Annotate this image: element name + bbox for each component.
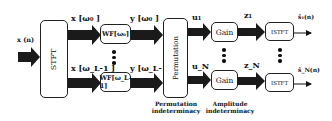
u-bottom-label: u_N — [192, 62, 209, 70]
gain-top-block: Gain — [211, 22, 238, 42]
istft-bottom-label: ISTFT — [271, 80, 288, 86]
vertical-ellipsis-gain — [222, 48, 226, 63]
x-bottom-label: x [ω_L-1 ] — [71, 64, 115, 72]
istft-top-label: ISTFT — [271, 29, 288, 35]
gain-bottom-block: Gain — [211, 70, 238, 90]
output-top-label: ŝ₁(n) — [298, 14, 314, 20]
amplitude-caption: Amplitude indeterminacy — [205, 101, 255, 114]
permutation-block: Permutation — [163, 18, 188, 98]
stft-to-wf-bottom-arrow — [68, 73, 101, 93]
istft-top-block: ISTFT — [265, 22, 294, 41]
stft-to-wf-top-arrow — [68, 25, 101, 45]
u-top-label: u₁ — [192, 13, 201, 21]
perm-to-gain-top-arrow — [188, 23, 211, 41]
vertical-ellipsis-istft — [278, 48, 282, 63]
wf-bottom-label: WF[ω_L-1] — [100, 74, 132, 90]
gain-top-label: Gain — [216, 28, 234, 37]
input-signal-label: x (n) — [17, 37, 34, 44]
gain-top-to-istft-arrow — [237, 23, 265, 41]
istft-bottom-block: ISTFT — [265, 73, 294, 92]
wf-top-label: WF[ω₀] — [102, 30, 129, 38]
permutation-caption: Permutation indeterminacy — [148, 101, 204, 114]
x-top-label: x [ω₀ ] — [71, 14, 100, 22]
output-bottom-label: ŝ_N(n) — [298, 67, 320, 73]
y-top-label: y [ω₀ ] — [130, 14, 159, 22]
gain-bottom-to-istft-arrow — [237, 72, 265, 90]
vertical-ellipsis-wf — [112, 50, 116, 65]
z-bottom-label: z_N — [244, 61, 260, 69]
permutation-label: Permutation — [172, 36, 180, 80]
perm-to-gain-bottom-arrow — [188, 71, 211, 89]
z-top-label: z₁ — [244, 11, 252, 19]
wf-top-to-perm-arrow — [130, 25, 163, 45]
wf-bottom-to-perm-arrow — [130, 73, 163, 93]
input-arrow — [18, 47, 40, 67]
wf-top-block: WF[ω₀] — [100, 24, 131, 44]
gain-bottom-label: Gain — [216, 76, 234, 85]
stft-block: STFT — [40, 20, 68, 98]
wf-bottom-block: WF[ω_L-1] — [100, 72, 131, 92]
stft-label: STFT — [49, 48, 58, 70]
